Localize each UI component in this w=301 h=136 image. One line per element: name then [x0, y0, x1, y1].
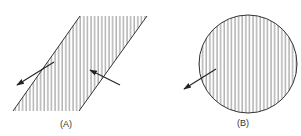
label-a: (A) — [60, 119, 72, 129]
diagram-canvas: (A) (B) — [0, 0, 301, 136]
label-b: (B) — [237, 118, 249, 128]
panel-a: (A) — [10, 14, 150, 129]
panel-b: (B) — [184, 14, 298, 128]
parallelogram-hatching — [10, 14, 150, 114]
